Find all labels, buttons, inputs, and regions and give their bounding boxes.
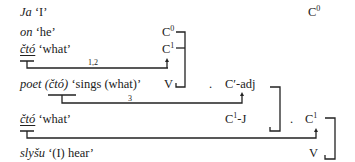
word-on: on xyxy=(20,25,33,39)
word-cto-2: čtó xyxy=(20,112,35,126)
row-slysu: slyšu ‘(I) hear’ xyxy=(20,146,94,160)
bracket-cadj-c1j xyxy=(270,87,280,131)
label-c1-right: C1 xyxy=(305,112,317,126)
label-v-2: V xyxy=(309,146,318,160)
word-cto-paren: (čtó) xyxy=(45,77,69,91)
word-poet: poet xyxy=(20,77,42,91)
label-c0: C0 xyxy=(162,25,174,39)
label-c1: C1 xyxy=(162,42,174,56)
gloss-sings: ‘sings (what)’ xyxy=(71,77,141,91)
arc-label-1-2: 1,2 xyxy=(88,58,98,67)
arc-line-slysu xyxy=(20,131,316,138)
row-poet: poet (čtó) ‘sings (what)’ xyxy=(20,77,141,91)
gloss-what: ‘what’ xyxy=(38,42,71,56)
arc-label-3: 3 xyxy=(128,94,132,103)
row-ja: Ja ‘I’ xyxy=(20,5,47,19)
word-slysu: slyšu xyxy=(20,146,45,160)
bracket-c1-v xyxy=(325,118,335,159)
gloss-what-2: ‘what’ xyxy=(38,112,71,126)
top-right-label: C0 xyxy=(308,5,320,19)
gloss-on: ‘he’ xyxy=(36,25,56,39)
dot-1: . xyxy=(209,77,212,91)
row-cto-2: čtó ‘what’ xyxy=(20,112,71,126)
word-ja: Ja xyxy=(20,5,32,19)
bracket-c0-c1-v xyxy=(176,32,185,87)
arc-3-line xyxy=(48,95,242,103)
row-on: on ‘he’ xyxy=(20,25,56,39)
label-v-1: V xyxy=(164,77,173,91)
gloss-ja: ‘I’ xyxy=(35,5,48,19)
label-c-adj: C′-adj xyxy=(225,77,256,91)
word-cto: čtó xyxy=(20,42,35,56)
dot-2: . xyxy=(290,112,293,126)
gloss-hear: ‘(I) hear’ xyxy=(48,146,94,160)
row-cto-1: čtó ‘what’ xyxy=(20,42,71,56)
label-c1-j: C1-J xyxy=(225,112,246,126)
